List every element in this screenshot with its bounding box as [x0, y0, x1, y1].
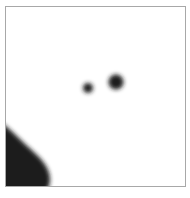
corner-blob	[6, 119, 50, 186]
blurred-shapes	[6, 7, 185, 186]
image-frame	[5, 6, 186, 187]
large-dot	[109, 75, 124, 90]
small-dot	[83, 83, 93, 93]
